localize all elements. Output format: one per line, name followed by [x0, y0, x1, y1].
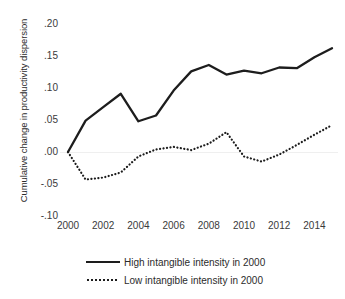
- series-line-high: [68, 48, 332, 152]
- legend-label-high: High intangible intensity in 2000: [124, 257, 265, 268]
- legend-entry-low: Low intangible intensity in 2000: [0, 271, 345, 289]
- productivity-dispersion-chart: Cumulative change in productivity disper…: [0, 0, 345, 299]
- chart-legend: High intangible intensity in 2000 Low in…: [0, 253, 345, 289]
- legend-entry-high: High intangible intensity in 2000: [0, 253, 345, 271]
- legend-swatch-dotted-line-icon: [86, 275, 120, 285]
- series-line-low: [68, 125, 332, 179]
- legend-label-low: Low intangible intensity in 2000: [124, 275, 263, 286]
- legend-swatch-solid-line-icon: [86, 257, 120, 267]
